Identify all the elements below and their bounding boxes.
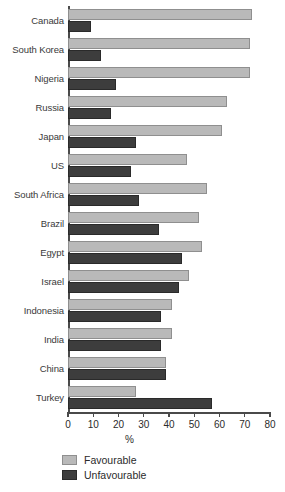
x-tick-50 bbox=[194, 412, 195, 417]
category-label-brazil: Brazil bbox=[0, 219, 66, 229]
category-label-russia: Russia bbox=[0, 103, 66, 113]
legend-item-unfavourable: Unfavourable bbox=[62, 467, 146, 482]
bar-unfavourable-nigeria bbox=[68, 79, 116, 90]
bar-unfavourable-egypt bbox=[68, 253, 182, 264]
legend-item-favourable: Favourable bbox=[62, 452, 146, 467]
bar-unfavourable-israel bbox=[68, 282, 179, 293]
bar-unfavourable-japan bbox=[68, 137, 136, 148]
x-axis-title: % bbox=[0, 434, 285, 445]
category-label-south-africa: South Africa bbox=[0, 190, 66, 200]
bar-favourable-israel bbox=[68, 270, 189, 281]
x-tick-30 bbox=[143, 412, 144, 417]
category-label-egypt: Egypt bbox=[0, 248, 66, 258]
category-label-indonesia: Indonesia bbox=[0, 306, 66, 316]
x-tick-label-70: 70 bbox=[239, 419, 250, 430]
x-tick-40 bbox=[168, 412, 169, 417]
bar-unfavourable-india bbox=[68, 340, 161, 351]
category-label-israel: Israel bbox=[0, 277, 66, 287]
bar-favourable-canada bbox=[68, 9, 252, 20]
x-tick-80 bbox=[269, 412, 270, 417]
bar-unfavourable-brazil bbox=[68, 224, 159, 235]
x-tick-70 bbox=[244, 412, 245, 417]
x-tick-20 bbox=[118, 412, 119, 417]
plot-area: CanadaSouth KoreaNigeriaRussiaJapanUSSou… bbox=[0, 0, 285, 418]
bar-unfavourable-us bbox=[68, 166, 131, 177]
bar-favourable-china bbox=[68, 357, 166, 368]
bar-favourable-turkey bbox=[68, 386, 136, 397]
bar-favourable-egypt bbox=[68, 241, 202, 252]
bar-favourable-nigeria bbox=[68, 67, 250, 78]
bar-series-container bbox=[68, 6, 278, 412]
bar-unfavourable-china bbox=[68, 369, 166, 380]
bar-unfavourable-south-korea bbox=[68, 50, 101, 61]
bar-unfavourable-south-africa bbox=[68, 195, 139, 206]
x-tick-label-80: 80 bbox=[264, 419, 275, 430]
x-tick-label-40: 40 bbox=[163, 419, 174, 430]
bar-favourable-japan bbox=[68, 125, 222, 136]
x-tick-10 bbox=[93, 412, 94, 417]
x-tick-60 bbox=[219, 412, 220, 417]
x-tick-0 bbox=[67, 412, 68, 417]
bar-chart: CanadaSouth KoreaNigeriaRussiaJapanUSSou… bbox=[0, 0, 285, 492]
x-tick-label-20: 20 bbox=[113, 419, 124, 430]
category-label-india: India bbox=[0, 335, 66, 345]
bar-favourable-us bbox=[68, 154, 187, 165]
x-axis-title-text: % bbox=[125, 434, 134, 445]
bar-favourable-south-korea bbox=[68, 38, 250, 49]
legend-swatch-favourable-icon bbox=[62, 455, 77, 465]
bar-unfavourable-turkey bbox=[68, 398, 212, 409]
category-label-turkey: Turkey bbox=[0, 393, 66, 403]
category-label-canada: Canada bbox=[0, 16, 66, 26]
bar-favourable-south-africa bbox=[68, 183, 207, 194]
bar-unfavourable-russia bbox=[68, 108, 111, 119]
bar-favourable-brazil bbox=[68, 212, 199, 223]
chart-legend: Favourable Unfavourable bbox=[62, 452, 146, 482]
category-label-us: US bbox=[0, 161, 66, 171]
category-label-south-korea: South Korea bbox=[0, 45, 66, 55]
legend-label-favourable: Favourable bbox=[84, 454, 137, 466]
bar-unfavourable-indonesia bbox=[68, 311, 161, 322]
bar-unfavourable-canada bbox=[68, 21, 91, 32]
x-tick-label-50: 50 bbox=[189, 419, 200, 430]
legend-swatch-unfavourable-icon bbox=[62, 470, 77, 480]
x-tick-label-30: 30 bbox=[138, 419, 149, 430]
category-label-china: China bbox=[0, 364, 66, 374]
x-tick-label-0: 0 bbox=[65, 419, 71, 430]
bar-favourable-russia bbox=[68, 96, 227, 107]
bar-favourable-indonesia bbox=[68, 299, 172, 310]
x-tick-label-60: 60 bbox=[214, 419, 225, 430]
category-label-japan: Japan bbox=[0, 132, 66, 142]
x-tick-label-10: 10 bbox=[88, 419, 99, 430]
category-label-nigeria: Nigeria bbox=[0, 74, 66, 84]
bar-favourable-india bbox=[68, 328, 172, 339]
category-axis-labels: CanadaSouth KoreaNigeriaRussiaJapanUSSou… bbox=[0, 0, 66, 412]
legend-label-unfavourable: Unfavourable bbox=[84, 469, 146, 481]
